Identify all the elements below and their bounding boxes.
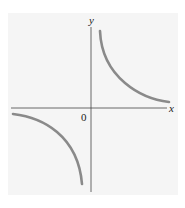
curve-branch-quadrant-3 — [13, 114, 82, 184]
x-axis-label: x — [168, 102, 174, 114]
y-axis-label: y — [88, 14, 94, 26]
curve-branch-quadrant-1 — [100, 31, 169, 102]
origin-label: 0 — [81, 111, 87, 123]
hyperbola-figure: y x 0 — [0, 0, 185, 208]
